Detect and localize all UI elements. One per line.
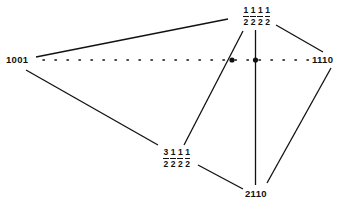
diagram-canvas xyxy=(0,0,342,208)
fraction: 12 xyxy=(170,148,176,168)
edge-left-middle-bottom xyxy=(26,70,158,145)
fraction-numerator: 1 xyxy=(250,6,256,17)
fraction-denominator: 2 xyxy=(185,159,190,169)
edge-middle-bottom-top xyxy=(184,31,243,145)
fraction-numerator: 1 xyxy=(177,148,183,159)
node-label-1001: 1001 xyxy=(6,55,28,65)
node-label-three-halves-half-half-half: 32 12 12 12 xyxy=(163,148,190,168)
fraction: 32 xyxy=(163,148,169,168)
fraction-denominator: 2 xyxy=(251,17,256,27)
fraction: 12 xyxy=(185,148,191,168)
intersection-point-2 xyxy=(253,57,258,62)
edge-left-top xyxy=(36,19,228,57)
fraction-numerator: 1 xyxy=(170,148,176,159)
edge-right-bottom xyxy=(267,68,331,183)
fraction-denominator: 2 xyxy=(258,17,263,27)
edge-top-right xyxy=(276,25,323,52)
fraction-numerator: 3 xyxy=(163,148,169,159)
intersection-point-1 xyxy=(229,57,234,62)
fraction: 12 xyxy=(250,6,256,26)
fraction: 12 xyxy=(243,6,249,26)
fraction-numerator: 1 xyxy=(265,6,271,17)
fraction: 12 xyxy=(177,148,183,168)
fraction: 12 xyxy=(265,6,271,26)
fraction-numerator: 1 xyxy=(243,6,249,17)
fraction: 12 xyxy=(257,6,263,26)
fraction-denominator: 2 xyxy=(178,159,183,169)
node-label-half-half-half-half: 12 12 12 12 xyxy=(243,6,270,26)
fraction-numerator: 1 xyxy=(185,148,191,159)
fraction-denominator: 2 xyxy=(164,159,169,169)
node-label-1110: 1110 xyxy=(312,55,333,65)
fraction-denominator: 2 xyxy=(171,159,176,169)
fraction-denominator: 2 xyxy=(244,17,249,27)
fraction-numerator: 1 xyxy=(257,6,263,17)
fraction-denominator: 2 xyxy=(265,17,270,27)
edge-middle-bottom-bottom xyxy=(198,165,243,189)
node-label-2110: 2110 xyxy=(245,189,267,199)
